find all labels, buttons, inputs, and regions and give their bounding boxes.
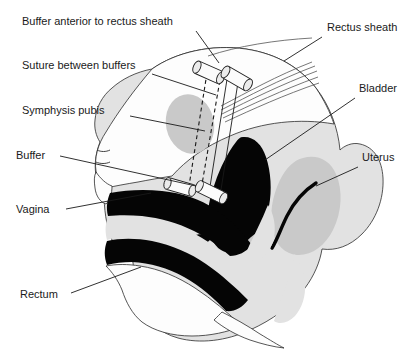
label-rectum: Rectum [20, 288, 58, 300]
label-buffer-anterior-to-rectus-sheath: Buffer anterior to rectus sheath [22, 15, 173, 27]
diagram-page: Buffer anterior to rectus sheath Suture … [0, 0, 416, 354]
label-buffer: Buffer [16, 149, 45, 161]
label-suture-between-buffers: Suture between buffers [22, 59, 136, 71]
label-symphysis-pubis: Symphysis pubis [22, 104, 105, 116]
label-vagina: Vagina [16, 203, 50, 215]
label-uterus: Uterus [362, 151, 395, 163]
leader-rectus-sheath [284, 37, 322, 61]
pelvic-sagittal-diagram: Buffer anterior to rectus sheath Suture … [0, 0, 416, 354]
label-rectus-sheath: Rectus sheath [327, 21, 397, 33]
label-bladder: Bladder [359, 82, 397, 94]
